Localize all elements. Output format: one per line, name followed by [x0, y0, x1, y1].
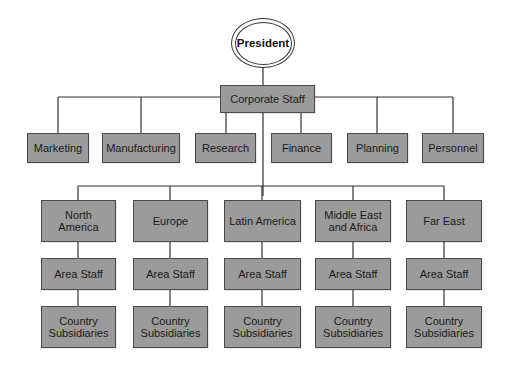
corporate-staff-node: Corporate Staff — [220, 85, 315, 113]
area-staff-node: Area Staff — [315, 258, 391, 290]
country-subsidiaries-node: Country Subsidiaries — [133, 306, 208, 348]
country-subsidiaries-node: Country Subsidiaries — [406, 306, 482, 348]
region-node-latin-america: Latin America — [224, 200, 301, 242]
function-node-research: Research — [195, 133, 256, 163]
region-node-middle-east-africa: Middle East and Africa — [315, 200, 391, 242]
area-staff-node: Area Staff — [406, 258, 482, 290]
function-node-planning: Planning — [347, 133, 408, 163]
area-staff-node: Area Staff — [133, 258, 208, 290]
country-subsidiaries-node: Country Subsidiaries — [224, 306, 301, 348]
area-staff-node: Area Staff — [224, 258, 301, 290]
org-chart: President Corporate Staff Marketing Manu… — [0, 0, 506, 369]
president-node: President — [231, 18, 295, 68]
function-node-finance: Finance — [271, 133, 332, 163]
region-node-far-east: Far East — [406, 200, 482, 242]
region-node-north-america: North America — [41, 200, 116, 242]
country-subsidiaries-node: Country Subsidiaries — [315, 306, 391, 348]
president-label: President — [235, 22, 292, 65]
function-node-personnel: Personnel — [422, 133, 484, 163]
area-staff-node: Area Staff — [41, 258, 116, 290]
region-node-europe: Europe — [133, 200, 208, 242]
country-subsidiaries-node: Country Subsidiaries — [41, 306, 116, 348]
function-node-marketing: Marketing — [27, 133, 89, 163]
function-node-manufacturing: Manufacturing — [102, 133, 180, 163]
